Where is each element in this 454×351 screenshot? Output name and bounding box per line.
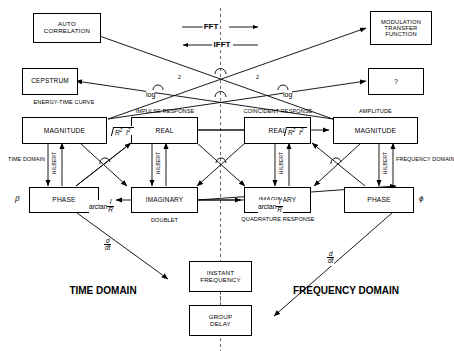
arctan-left-fraction: IR (107, 199, 114, 213)
arctan-right-den: R (276, 206, 283, 214)
box-unknown: ? (368, 68, 424, 95)
box-instant-frequency: INSTANT FREQUENCY (189, 261, 252, 292)
box-imaginary-time: IMAGINARY (131, 187, 198, 213)
caption-coincident-response: COINCIDENT RESPONSE (233, 108, 323, 114)
ddt-right-fraction: ddt (327, 251, 334, 265)
arctan-right-word: arctan (258, 203, 276, 210)
arctan-right-fraction: IR (276, 199, 283, 213)
time-domain-small-line1: TIME (8, 156, 21, 162)
frequency-domain-line2: DOMAIN (358, 285, 399, 296)
label-fft: FFT (203, 22, 220, 31)
phi-symbol: ϕ (419, 194, 423, 203)
label-ddt-left: ddt (104, 239, 111, 253)
caption-hilbert-time-magnitude: HILBERT (52, 144, 58, 182)
instant-frequency-line2: FREQUENCY (200, 277, 241, 284)
frequency-domain-line1: FREQUENCY (293, 285, 356, 296)
ddt-left-fraction: ddt (104, 238, 111, 252)
label-sqrt-r2-i2-left: R2 I2 (112, 126, 133, 135)
time-domain-line1: TIME (69, 285, 93, 296)
label-ifft: IFFT (213, 40, 232, 49)
box-auto-correlation: AUTO CORRELATION (33, 13, 101, 43)
sqrt-right-i-exp: 2 (301, 128, 304, 133)
imaginary-left-label: IMAGINARY (146, 197, 184, 204)
sqrt-left-i-exp: 2 (128, 128, 131, 133)
ifft-label: IFFT (214, 40, 231, 49)
box-cepstrum: CEPSTRUM (22, 68, 78, 95)
time-domain-small-line2: DOMAIN (23, 156, 45, 162)
label-arctan-right: arctanIR (258, 200, 283, 214)
hilbert-label-3: HILBERT (278, 152, 284, 175)
sqrt-left-r-exp: 2 (120, 128, 123, 133)
time-domain-line2: DOMAIN (96, 285, 137, 296)
freq-domain-small-line1: FREQUENCY (396, 156, 431, 162)
sqrt-right-r-exp: 2 (293, 128, 296, 133)
box-magnitude-frequency: MAGNITUDE (333, 117, 418, 144)
box-modulation-transfer-function: MODULATION TRANSFER FUNCTION (370, 11, 432, 45)
label-time-domain: TIME DOMAIN (48, 285, 158, 297)
ddt-left-den: dt (104, 244, 111, 251)
caption-frequency-domain-small: FREQUENCY DOMAIN (396, 157, 440, 163)
caption-amplitude: AMPLITUDE (333, 108, 418, 114)
coincident-response-label: COINCIDENT RESPONSE (243, 108, 312, 114)
label-phi: ϕ (419, 194, 423, 203)
label-sqrt-r2-i2-right: R2 I2 (285, 126, 306, 135)
group-delay-line2: DELAY (209, 321, 233, 328)
beta-symbol: β (15, 194, 20, 203)
exponent-two-left: 2 (178, 74, 181, 80)
label-log-right: log (283, 91, 292, 98)
magnitude-left-label: MAGNITUDE (44, 127, 85, 134)
auto-correlation-line2: CORRELATION (44, 28, 90, 35)
freq-domain-small-line2: DOMAIN (432, 156, 454, 162)
sqrt-right: R2 I2 (284, 127, 307, 136)
quadrature-line2: RESPONSE (283, 216, 315, 222)
label-ddt-right: ddt (327, 252, 334, 266)
log-right: log (283, 91, 292, 98)
energy-time-line1: ENERGY-TIME (33, 99, 72, 105)
hilbert-label-4: HILBERT (382, 152, 388, 175)
label-log-left: log (146, 91, 155, 98)
modulation-line3: FUNCTION (381, 31, 421, 37)
sqrt-left: R2 I2 (111, 127, 134, 136)
label-beta: β (15, 194, 20, 203)
real-left-label: REAL (155, 127, 173, 134)
phase-left-label: PHASE (52, 196, 75, 203)
box-real-time: REAL (131, 117, 198, 144)
hilbert-label-2: HILBERT (155, 152, 161, 175)
caption-impulse-response: IMPULSE RESPONSE (124, 108, 206, 114)
exponent-two-right: 2 (256, 74, 259, 80)
energy-time-line2: CURVE (75, 99, 95, 105)
hilbert-label-1: HILBERT (51, 152, 57, 175)
cepstrum-label: CEPSTRUM (31, 78, 68, 85)
amplitude-label: AMPLITUDE (359, 108, 392, 114)
label-arctan-left: arctanIR (89, 200, 114, 214)
caption-energy-time-curve: ENERGY-TIME CURVE (18, 99, 110, 105)
caption-hilbert-time-real: HILBERT (156, 144, 162, 182)
caption-time-domain-small: TIME DOMAIN (8, 157, 44, 163)
ddt-right-den: dt (327, 257, 334, 264)
quadrature-line1: QUADRATURE (241, 216, 281, 222)
magnitude-right-label: MAGNITUDE (355, 127, 396, 134)
doublet-label: DOUBLET (151, 217, 178, 223)
box-phase-frequency: PHASE (344, 187, 414, 213)
impulse-response-label: IMPULSE RESPONSE (136, 108, 195, 114)
caption-quadrature-response: QUADRATURE RESPONSE (240, 216, 316, 222)
label-exponent-two-left: 2 (178, 74, 181, 80)
label-exponent-two-right: 2 (256, 74, 259, 80)
caption-doublet: DOUBLET (131, 217, 198, 223)
box-magnitude-time: MAGNITUDE (22, 117, 107, 144)
phase-right-label: PHASE (367, 196, 390, 203)
arctan-left-word: arctan (89, 203, 107, 210)
log-left: log (146, 91, 155, 98)
caption-hilbert-frequency-magnitude: HILBERT (383, 144, 389, 182)
modulation-line1: MODULATION (381, 19, 421, 25)
caption-hilbert-frequency-real: HILBERT (279, 144, 285, 182)
arctan-right-num: I (278, 199, 282, 206)
box-group-delay: GROUP DELAY (189, 305, 252, 336)
label-frequency-domain: FREQUENCY DOMAIN (282, 285, 410, 297)
unknown-label: ? (394, 78, 398, 86)
arctan-left-num: I (109, 199, 113, 206)
fft-label: FFT (204, 22, 219, 31)
arctan-left-den: R (107, 206, 114, 214)
